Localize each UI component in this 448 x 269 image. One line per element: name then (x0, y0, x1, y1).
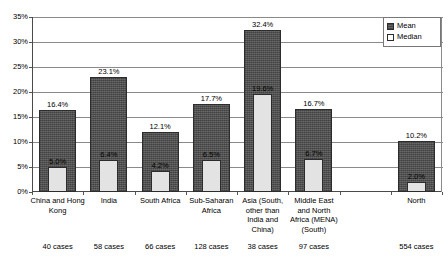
bar-median (407, 182, 426, 192)
bar-value-label-median: 4.2% (135, 161, 186, 170)
y-tick-label: 10% (13, 138, 28, 146)
bar-value-label-mean: 16.4% (32, 100, 83, 109)
x-tick-mark (442, 192, 443, 195)
x-axis-case-count: 97 cases (282, 242, 345, 251)
bar-value-label-mean: 10.2% (391, 131, 442, 140)
bar-value-label-median: 6.5% (186, 150, 237, 159)
y-tick-label: 15% (13, 113, 28, 121)
bar-value-label-median: 19.6% (237, 84, 288, 93)
y-tick-label: 25% (13, 63, 28, 71)
bar-median (48, 167, 67, 192)
y-tick-label: 30% (13, 38, 28, 46)
bar-value-label-mean: 32.4% (237, 20, 288, 29)
bar-value-label-median: 5.0% (32, 157, 83, 166)
x-tick-mark (135, 192, 136, 195)
x-axis-category-label: Middle Eastand NorthAfrica (MENA)(South) (282, 196, 345, 234)
bar-median (99, 160, 118, 192)
bar-value-label-mean: 23.1% (83, 67, 134, 76)
y-axis: 0%5%10%15%20%25%30%35% (0, 0, 32, 269)
bar-value-label-median: 6.4% (83, 150, 134, 159)
legend-label-median: Median (397, 33, 422, 41)
bar-median (253, 94, 272, 192)
bar-chart: 0%5%10%15%20%25%30%35% 16.4%5.0%23.1%6.4… (0, 0, 448, 269)
x-axis-category-label: North (385, 196, 448, 206)
y-tick-label: 5% (17, 163, 28, 171)
bar-value-label-mean: 16.7% (288, 99, 339, 108)
x-tick-mark (288, 192, 289, 195)
x-tick-mark (340, 192, 341, 195)
chart-legend: Mean Median (383, 17, 441, 47)
legend-item-mean: Mean (387, 21, 437, 31)
bar-median (151, 171, 170, 192)
bar-value-label-mean: 17.7% (186, 94, 237, 103)
y-tick-label: 20% (13, 88, 28, 96)
legend-label-mean: Mean (397, 22, 416, 30)
bar-value-label-median: 6.7% (288, 149, 339, 158)
bar-value-label-median: 2.0% (391, 172, 442, 181)
x-tick-mark (237, 192, 238, 195)
bars-layer: 16.4%5.0%23.1%6.4%12.1%4.2%17.7%6.5%32.4… (32, 17, 442, 192)
legend-swatch-mean-icon (387, 23, 394, 30)
x-axis-labels: China and HongKong40 casesIndia58 casesS… (32, 196, 442, 269)
x-tick-mark (186, 192, 187, 195)
y-tick-label: 0% (17, 188, 28, 196)
legend-swatch-median-icon (387, 34, 394, 41)
bar-median (304, 159, 323, 193)
bar-value-label-mean: 12.1% (135, 122, 186, 131)
legend-item-median: Median (387, 32, 437, 42)
x-tick-mark (83, 192, 84, 195)
x-axis-case-count: 554 cases (385, 242, 448, 251)
x-tick-mark (391, 192, 392, 195)
bar-median (202, 160, 221, 193)
x-tick-mark (32, 192, 33, 195)
y-tick-label: 35% (13, 13, 28, 21)
